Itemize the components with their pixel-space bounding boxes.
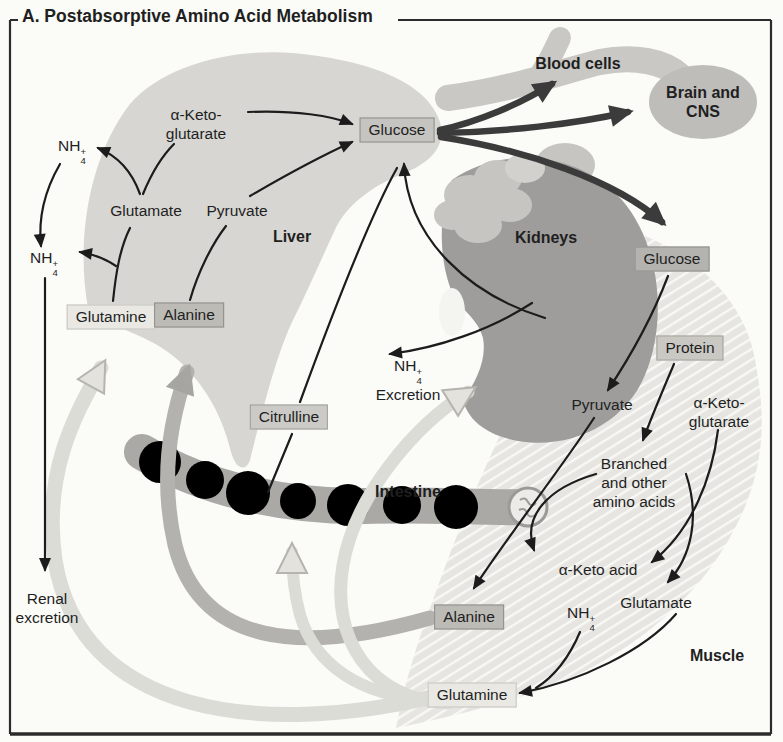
nh4-excretion-label: NH+4 Excretion [376, 356, 441, 404]
arrow-nh4-top-to-nh4-lower [40, 164, 60, 246]
glutamine-box-liver: Glutamine [67, 305, 156, 330]
muscle-label: Muscle [690, 646, 744, 665]
liver-label: Liver [273, 227, 311, 246]
ketoglutarate-label-muscle: α-Keto- glutarate [689, 393, 749, 431]
pyruvate-label-liver: Pyruvate [206, 201, 267, 220]
kidneys-label: Kidneys [515, 228, 577, 247]
keto-acid-label: α-Keto acid [559, 560, 638, 579]
glucose-box-muscle: Glucose [635, 247, 710, 272]
nh4-label-muscle: NH+4 [567, 603, 595, 632]
brain-cns-label: Brain and CNS [666, 83, 740, 121]
alanine-box-muscle: Alanine [434, 605, 504, 630]
ketoglutarate-label-liver: α-Keto- glutarate [166, 105, 226, 143]
glutamate-label-muscle: Glutamate [620, 593, 692, 612]
blood-cells-label: Blood cells [535, 54, 620, 73]
glutamate-label-liver: Glutamate [110, 201, 182, 220]
glutamine-box-muscle: Glutamine [428, 683, 517, 708]
figure-postabsorptive-amino-acid-metabolism: A. Postabsorptive Amino Acid Metabolism … [0, 0, 783, 742]
branched-amino-acids-label: Branched and other amino acids [593, 454, 676, 511]
intestine-label: Intestine [375, 482, 441, 501]
figure-title: A. Postabsorptive Amino Acid Metabolism [22, 6, 373, 27]
nh4-label-lower: NH+4 [30, 248, 58, 277]
alanine-box-liver: Alanine [154, 303, 224, 328]
renal-excretion-label: Renal excretion [16, 589, 79, 627]
citrulline-box: Citrulline [250, 405, 328, 430]
pyruvate-label-muscle: Pyruvate [571, 395, 632, 414]
glucose-box-liver: Glucose [360, 118, 435, 143]
nh4-label-top: NH+4 [58, 136, 86, 165]
protein-box: Protein [656, 336, 723, 361]
